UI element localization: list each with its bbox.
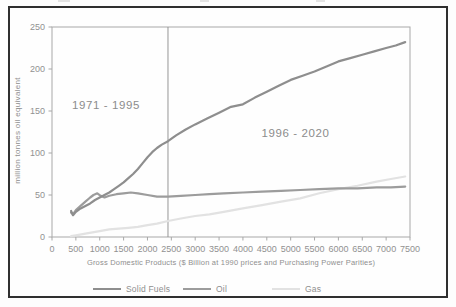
x-tick-label: 4500 bbox=[257, 244, 277, 254]
x-tick-label: 1500 bbox=[114, 244, 134, 254]
chart-page: { "colors": { "frame": "#2f2f2f", "axis"… bbox=[0, 0, 456, 307]
x-tick-label: 3000 bbox=[185, 244, 205, 254]
legend-item-gas: Gas bbox=[272, 283, 321, 295]
y-tick-label: 100 bbox=[30, 148, 45, 158]
x-tick-label: 4000 bbox=[233, 244, 253, 254]
solid-fuels-line-swatch bbox=[93, 288, 121, 290]
x-tick-label: 7500 bbox=[400, 244, 420, 254]
gas-line-swatch bbox=[272, 288, 300, 290]
legend-label-solid-fuels: Solid Fuels bbox=[126, 284, 170, 294]
x-tick-label: 6000 bbox=[328, 244, 348, 254]
x-tick-label: 5000 bbox=[281, 244, 301, 254]
annotation-period-1971-1995: 1971 - 1995 bbox=[46, 99, 166, 111]
series-line-gas bbox=[71, 177, 405, 237]
x-axis-title: Gross Domestic Products ($ Billion at 19… bbox=[41, 258, 421, 267]
x-tick-label: 2000 bbox=[137, 244, 157, 254]
y-tick-label: 200 bbox=[30, 64, 45, 74]
legend-item-oil: Oil bbox=[183, 283, 227, 295]
legend-label-gas: Gas bbox=[305, 284, 321, 294]
oil-line-swatch bbox=[183, 288, 211, 290]
y-tick-label: 0 bbox=[40, 232, 45, 242]
plot-border bbox=[52, 27, 410, 237]
y-tick-label: 150 bbox=[30, 106, 45, 116]
y-axis-title: million tonnes oil equivalent bbox=[13, 26, 22, 236]
x-tick-label: 3500 bbox=[209, 244, 229, 254]
x-tick-label: 500 bbox=[68, 244, 83, 254]
y-tick-label: 50 bbox=[35, 190, 45, 200]
x-tick-label: 1000 bbox=[90, 244, 110, 254]
legend-item-solid-fuels: Solid Fuels bbox=[93, 283, 170, 295]
annotation-period-1996-2020: 1996 - 2020 bbox=[235, 127, 355, 139]
x-tick-label: 2500 bbox=[161, 244, 181, 254]
x-tick-label: 0 bbox=[49, 244, 54, 254]
legend-label-oil: Oil bbox=[216, 284, 227, 294]
x-tick-label: 7000 bbox=[376, 244, 396, 254]
x-tick-label: 5500 bbox=[305, 244, 325, 254]
y-tick-label: 250 bbox=[30, 22, 45, 32]
x-tick-label: 6500 bbox=[352, 244, 372, 254]
